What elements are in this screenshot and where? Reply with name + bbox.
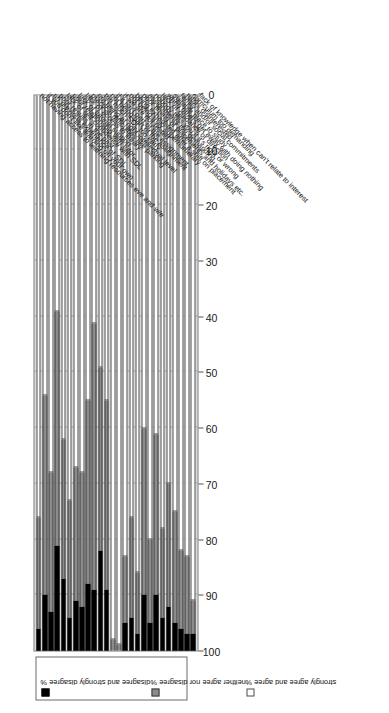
bar-row <box>47 95 53 650</box>
chart-rotation-wrapper: disagree and strongly disagree %neither … <box>0 0 389 713</box>
bar-track <box>135 95 140 650</box>
plot-area <box>33 94 198 651</box>
bar-track <box>153 95 158 650</box>
bar-segment-agree <box>153 95 158 434</box>
bar-segment-agree <box>190 95 195 600</box>
bar-row <box>54 95 60 650</box>
bar-track <box>190 95 195 650</box>
bar-segment-agree <box>85 95 90 400</box>
bar-segment-neither <box>172 511 177 622</box>
axis-tick-label: 50 <box>205 367 217 379</box>
bar-track <box>116 95 121 650</box>
bar-track <box>98 95 103 650</box>
bar-row <box>165 95 171 650</box>
bar-track <box>184 95 189 650</box>
bar-segment-neither <box>104 400 109 589</box>
bar-row <box>146 95 152 650</box>
axis-tick <box>198 260 203 261</box>
bar-segment-disagree <box>160 617 165 650</box>
bar-segment-neither <box>116 644 121 650</box>
bar-track <box>122 95 127 650</box>
bar-track <box>141 95 146 650</box>
bar-segment-agree <box>178 95 183 550</box>
bar-row <box>78 95 84 650</box>
bar-track <box>73 95 78 650</box>
bar-segment-disagree <box>184 633 189 650</box>
bar-row <box>153 95 159 650</box>
legend-entry: disagree and strongly disagree % <box>40 660 150 696</box>
bar-segment-neither <box>42 395 47 595</box>
bar-segment-neither <box>190 600 195 633</box>
bar-track <box>67 95 72 650</box>
bar-segment-neither <box>91 323 96 589</box>
bar-segment-agree <box>91 95 96 323</box>
axis-tick-label: 80 <box>205 534 217 546</box>
bar-segment-agree <box>166 95 171 484</box>
bar-segment-neither <box>67 500 72 617</box>
bar-track <box>166 95 171 650</box>
bar-row <box>109 95 115 650</box>
bar-segment-disagree <box>73 600 78 650</box>
bar-segment-disagree <box>36 628 41 650</box>
bar-segment-agree <box>160 95 165 528</box>
bar-segment-disagree <box>61 578 66 650</box>
axis-tick-label: 70 <box>205 478 217 490</box>
bar-segment-disagree <box>172 622 177 650</box>
axis-tick <box>198 372 203 373</box>
axis-tick-label: 20 <box>205 199 217 211</box>
bar-segment-neither <box>160 528 165 617</box>
legend-entry: neither agree nor disagree % <box>150 660 245 696</box>
bar-segment-agree <box>54 95 59 311</box>
bar-row <box>159 95 165 650</box>
bar-segment-disagree <box>85 583 90 650</box>
bar-row <box>177 95 183 650</box>
legend-label: neither agree nor disagree % <box>150 676 245 685</box>
bar-segment-neither <box>135 572 140 633</box>
axis-tick-label: 60 <box>205 422 217 434</box>
bar-segment-neither <box>122 556 127 623</box>
bar-track <box>129 95 134 650</box>
axis-tick-label: 90 <box>205 589 217 601</box>
axis-tick-label: 40 <box>205 311 217 323</box>
bar-segment-agree <box>61 95 66 439</box>
bar-segment-agree <box>48 95 53 472</box>
bar-track <box>79 95 84 650</box>
bar-track <box>178 95 183 650</box>
bar-segment-disagree <box>91 589 96 650</box>
bar-segment-agree <box>135 95 140 572</box>
bar-row <box>35 95 41 650</box>
axis-tick <box>198 204 203 205</box>
bar-track <box>48 95 53 650</box>
bar-segment-neither <box>129 517 134 617</box>
bar-segment-agree <box>104 95 109 400</box>
axis-tick <box>198 427 203 428</box>
bar-segment-neither <box>141 428 146 595</box>
bar-row <box>97 95 103 650</box>
bar-segment-neither <box>54 311 59 544</box>
axis-tick <box>198 149 203 150</box>
bar-row <box>91 95 97 650</box>
bar-segment-disagree <box>54 545 59 650</box>
bar-row <box>60 95 66 650</box>
bar-segment-neither <box>48 472 53 611</box>
bar-segment-disagree <box>147 622 152 650</box>
bar-track <box>61 95 66 650</box>
bar-segment-neither <box>61 439 66 578</box>
bar-segment-agree <box>42 95 47 395</box>
bar-row <box>72 95 78 650</box>
bar-row <box>190 95 196 650</box>
bar-segment-disagree <box>79 606 84 650</box>
bar-segment-disagree <box>48 611 53 650</box>
axis-tick <box>198 594 203 595</box>
bar-segment-agree <box>172 95 177 511</box>
bar-segment-disagree <box>178 628 183 650</box>
bar-row <box>128 95 134 650</box>
bar-segment-disagree <box>135 633 140 650</box>
bar-segment-disagree <box>153 594 158 650</box>
bar-segment-neither <box>153 434 158 595</box>
bar-segment-agree <box>98 95 103 367</box>
white-square-icon <box>246 688 254 696</box>
bar-track <box>160 95 165 650</box>
stacked-bar-chart: disagree and strongly disagree %neither … <box>0 0 389 713</box>
bar-segment-neither <box>85 400 90 583</box>
